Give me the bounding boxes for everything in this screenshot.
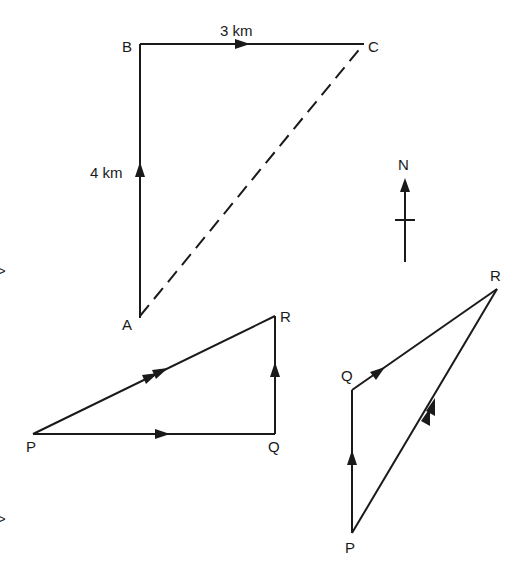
point-c-label: C xyxy=(368,38,379,55)
resultant-ac xyxy=(140,46,362,316)
arrow-up-icon xyxy=(270,362,280,377)
arrow-right-icon xyxy=(235,39,250,49)
arrow-up-icon xyxy=(135,162,145,177)
point-r-label: R xyxy=(490,267,501,284)
point-q-label: Q xyxy=(341,367,353,384)
arrow-right-icon xyxy=(370,367,385,380)
margin-mark: > xyxy=(0,510,6,527)
point-a-label: A xyxy=(122,316,132,333)
distance-bc-label: 3 km xyxy=(220,22,253,39)
resultant-pr xyxy=(352,289,497,533)
arrow-right-icon xyxy=(155,429,170,439)
double-arrow-icon xyxy=(152,368,168,379)
figure-abc: B C A 3 km 4 km xyxy=(90,22,379,333)
point-b-label: B xyxy=(122,38,132,55)
arrow-up-icon xyxy=(347,450,357,465)
vector-diagram: B C A 3 km 4 km N P Q R P Q R > xyxy=(0,0,527,564)
point-p-label: P xyxy=(345,539,355,556)
point-q-label: Q xyxy=(268,438,280,455)
figure-pqr-2: P Q R xyxy=(341,267,501,556)
point-r-label: R xyxy=(280,308,291,325)
north-compass: N xyxy=(395,156,415,262)
north-arrow-icon xyxy=(400,178,410,192)
distance-ab-label: 4 km xyxy=(90,164,123,181)
margin-mark: > xyxy=(0,262,6,279)
point-p-label: P xyxy=(26,438,36,455)
north-label: N xyxy=(398,156,409,173)
figure-pqr-1: P Q R xyxy=(26,308,291,455)
